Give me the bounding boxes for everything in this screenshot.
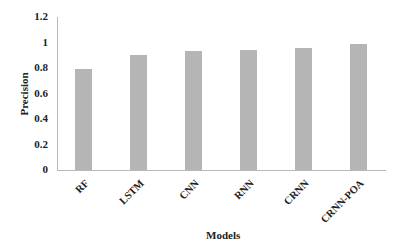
x-tick-label: RF bbox=[27, 178, 91, 242]
y-tick-label: 0 bbox=[18, 163, 48, 175]
y-axis-line bbox=[57, 17, 58, 171]
y-tick-label: 1.2 bbox=[18, 10, 48, 22]
y-tick-label: 1 bbox=[18, 36, 48, 48]
bar-rnn bbox=[240, 50, 257, 170]
y-tick-label: 0.8 bbox=[18, 61, 48, 73]
x-tick-label: LSTM bbox=[82, 178, 146, 242]
x-tick-label: CRNN bbox=[247, 178, 311, 242]
bar-rf bbox=[75, 69, 92, 170]
x-axis-title: Models bbox=[206, 229, 240, 241]
y-tick-label: 0.2 bbox=[18, 138, 48, 150]
x-axis-line bbox=[57, 170, 386, 171]
bar-lstm bbox=[130, 55, 147, 170]
bar-crnn bbox=[295, 48, 312, 170]
y-axis-title: Precision bbox=[18, 72, 30, 115]
bar-cnn bbox=[185, 51, 202, 170]
precision-bar-chart: 00.20.40.60.811.2 RFLSTMCNNRNNCRNNCRNN-P… bbox=[0, 0, 404, 252]
x-tick-label: CRNN-POA bbox=[302, 178, 366, 242]
bar-crnn-poa bbox=[350, 44, 367, 170]
x-tick-label: CNN bbox=[137, 178, 201, 242]
